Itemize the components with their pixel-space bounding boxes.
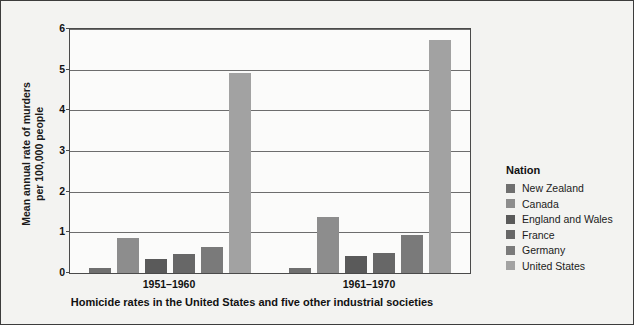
legend-item-label: United States: [522, 260, 585, 272]
legend-swatch-icon: [506, 215, 515, 224]
y-axis-tick-label: 1: [41, 225, 65, 237]
gridline: [70, 70, 470, 71]
legend: Nation New ZealandCanadaEngland and Wale…: [506, 164, 632, 275]
legend-item[interactable]: United States: [506, 260, 632, 272]
bar: [89, 268, 111, 273]
x-axis-group-label: 1951–1960: [143, 278, 196, 290]
legend-item[interactable]: Germany: [506, 244, 632, 256]
gridline: [70, 192, 470, 193]
gridline: [70, 232, 470, 233]
y-axis-tick-label: 2: [41, 185, 65, 197]
legend-item-label: France: [522, 229, 555, 241]
y-axis-tick-label: 4: [41, 103, 65, 115]
legend-item[interactable]: France: [506, 229, 632, 241]
legend-item[interactable]: England and Wales: [506, 213, 632, 225]
bar: [289, 268, 311, 273]
legend-swatch-icon: [506, 246, 515, 255]
chart-caption: Homicide rates in the United States and …: [1, 296, 503, 308]
legend-swatch-icon: [506, 261, 515, 270]
legend-swatch-icon: [506, 184, 515, 193]
bar: [317, 217, 339, 273]
x-axis-group-label: 1961–1970: [343, 278, 396, 290]
bar: [401, 235, 423, 273]
bar: [201, 247, 223, 273]
y-axis-tick-label: 0: [41, 266, 65, 278]
legend-swatch-icon: [506, 199, 515, 208]
plot-area: [69, 28, 471, 274]
legend-swatch-icon: [506, 230, 515, 239]
legend-items: New ZealandCanadaEngland and WalesFrance…: [506, 182, 632, 272]
gridline: [70, 110, 470, 111]
y-axis-tick-label: 3: [41, 144, 65, 156]
gridline: [70, 29, 470, 30]
legend-item[interactable]: New Zealand: [506, 182, 632, 194]
legend-item[interactable]: Canada: [506, 198, 632, 210]
bar: [373, 253, 395, 273]
legend-item-label: Germany: [522, 244, 565, 256]
bar: [345, 256, 367, 273]
legend-title: Nation: [506, 164, 632, 176]
bar: [145, 259, 167, 273]
legend-item-label: New Zealand: [522, 182, 584, 194]
legend-item-label: England and Wales: [522, 213, 613, 225]
bar: [229, 73, 251, 273]
chart-figure: Mean annual rate of murders per 100,000 …: [0, 0, 634, 325]
y-axis-title-line-1: Mean annual rate of murders: [20, 82, 32, 226]
gridline: [70, 151, 470, 152]
legend-item-label: Canada: [522, 198, 559, 210]
bar: [429, 40, 451, 273]
bar: [117, 238, 139, 273]
bar: [173, 254, 195, 273]
y-axis-tick-label: 5: [41, 63, 65, 75]
y-axis-tick-label: 6: [41, 22, 65, 34]
y-axis-ticks: 0123456: [37, 28, 65, 272]
